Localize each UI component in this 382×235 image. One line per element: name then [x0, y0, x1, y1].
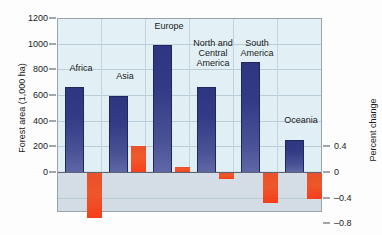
y-tick-mark-right [323, 197, 330, 198]
y-tick-mark-left [49, 69, 56, 70]
y-tick-label-left: 400 [33, 116, 48, 126]
bar-forest-area-africa [65, 87, 84, 172]
group-label-africa: Africa [69, 63, 92, 73]
y-tick-label-left: 0 [43, 167, 48, 177]
y-tick-mark-left [49, 43, 56, 44]
y-tick-label-left: 1200 [28, 13, 48, 23]
y-tick-label-left: 1000 [28, 39, 48, 49]
cell-separator [277, 19, 278, 172]
bar-percent-change-asia [131, 146, 146, 172]
y-axis-left-label: Forest area (1,000 ha) [17, 33, 27, 183]
y-tick-label-right: –0.8 [334, 218, 352, 228]
bar-percent-change-europe [175, 167, 190, 173]
y-tick-mark-left [49, 146, 56, 147]
bar-percent-change-africa [87, 173, 102, 218]
y-tick-mark-left [49, 95, 56, 96]
bar-forest-area-oceania [285, 140, 304, 172]
cell-separator [233, 19, 234, 172]
y-tick-label-right: 0 [334, 167, 339, 177]
y-axis-right: Percent change 0.4 0 –0.4 –0.8 [322, 0, 382, 235]
group-label-asia: Asia [116, 71, 134, 81]
group-label-south-america: South America [240, 38, 273, 58]
cell-separator [101, 19, 102, 172]
y-axis-right-label: Percent change [368, 70, 378, 190]
y-tick-mark-left [49, 120, 56, 121]
cell-separator [189, 19, 190, 172]
y-tick-mark-right [323, 172, 330, 173]
y-axis-left: Forest area (1,000 ha) 1200 1000 800 600… [0, 0, 57, 235]
group-label-north-and-central-america: North and Central America [193, 38, 233, 68]
bar-forest-area-south-america [241, 62, 260, 172]
bar-percent-change-oceania [307, 173, 322, 199]
group-label-oceania: Oceania [284, 115, 318, 125]
bar-forest-area-asia [109, 96, 128, 173]
group-label-europe: Europe [154, 21, 183, 31]
y-tick-label-right: –0.4 [334, 193, 352, 203]
y-tick-label-left: 800 [33, 64, 48, 74]
bar-forest-area-europe [153, 45, 172, 173]
bar-percent-change-south-america [263, 173, 278, 203]
y-tick-label-left: 200 [33, 141, 48, 151]
plot-area [57, 18, 322, 212]
y-tick-mark-left [49, 172, 56, 173]
y-tick-label-right: 0.4 [334, 141, 347, 151]
y-tick-label-left: 600 [33, 90, 48, 100]
y-tick-mark-right [323, 223, 330, 224]
chart-figure: Forest area (1,000 ha) 1200 1000 800 600… [0, 0, 382, 235]
y-tick-mark-right [323, 146, 330, 147]
y-tick-mark-left [49, 18, 56, 19]
bar-percent-change-north-and-central-america [219, 173, 234, 179]
bar-forest-area-north-and-central-america [197, 87, 216, 172]
